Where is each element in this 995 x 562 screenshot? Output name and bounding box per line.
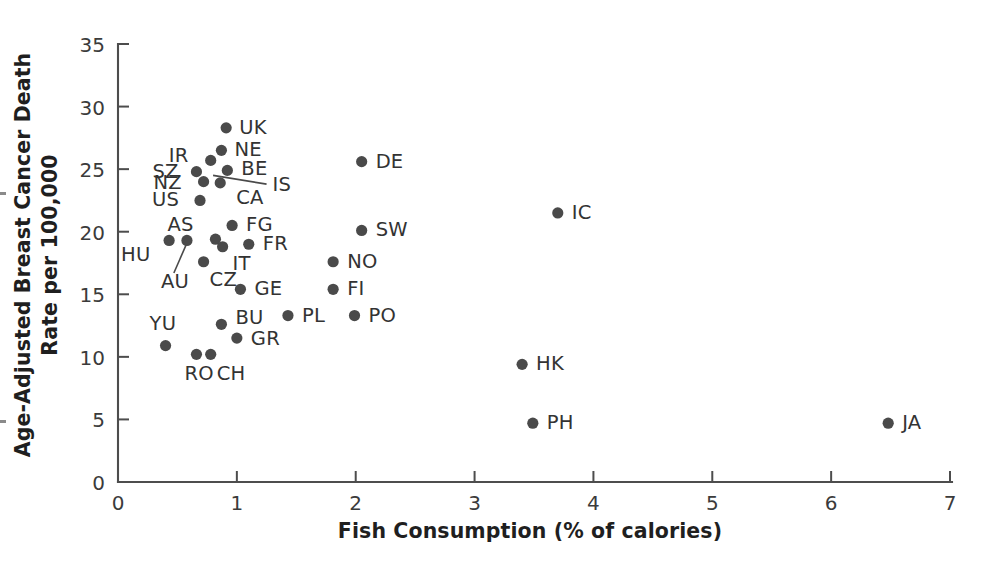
x-tick-label-3: 3 <box>468 491 481 515</box>
data-points: UKNEIRBESZNZCAUSFGASHUAUFRITCZGEBUGRYURO… <box>121 116 922 434</box>
au-leader <box>174 243 187 273</box>
point-label-CH: CH <box>217 362 246 385</box>
data-point-IC[interactable] <box>552 207 563 218</box>
point-label-CA: CA <box>236 186 264 209</box>
y-tick-label-15: 15 <box>80 283 105 307</box>
data-point-NO[interactable] <box>328 256 339 267</box>
data-point-NZ[interactable] <box>198 176 209 187</box>
data-point-RO[interactable] <box>191 349 202 360</box>
point-label-PO: PO <box>369 304 397 327</box>
x-tick-label-1: 1 <box>230 491 243 515</box>
x-tick-label-7: 7 <box>944 491 957 515</box>
data-point-CA[interactable] <box>215 177 226 188</box>
x-tick-label-5: 5 <box>706 491 719 515</box>
data-point-GE[interactable] <box>235 284 246 295</box>
point-label-GR: GR <box>251 327 280 350</box>
data-point-PH[interactable] <box>527 418 538 429</box>
point-label-CZ: CZ <box>210 268 237 291</box>
y-axis-title-line1: Age-Adjusted Breast Cancer Death <box>11 53 35 458</box>
data-point-IT[interactable] <box>217 241 228 252</box>
data-point-BU[interactable] <box>216 319 227 330</box>
x-axis-title: Fish Consumption (% of calories) <box>338 519 722 543</box>
data-point-IR[interactable] <box>205 155 216 166</box>
x-tick-label-4: 4 <box>587 491 600 515</box>
point-label-IS: IS <box>273 173 292 196</box>
data-point-NE[interactable] <box>216 145 227 156</box>
data-point-GR[interactable] <box>231 332 242 343</box>
data-point-FR[interactable] <box>243 239 254 250</box>
point-label-UK: UK <box>239 116 267 139</box>
data-point-HK[interactable] <box>517 359 528 370</box>
point-label-JA: JA <box>900 411 922 434</box>
data-point-HU[interactable] <box>164 235 175 246</box>
y-tick-label-5: 5 <box>92 408 105 432</box>
data-point-CZ[interactable] <box>198 256 209 267</box>
data-point-DE[interactable] <box>356 156 367 167</box>
data-point-PO[interactable] <box>349 310 360 321</box>
y-tick-label-25: 25 <box>80 158 105 182</box>
point-label-US: US <box>152 188 179 211</box>
data-point-AU[interactable] <box>181 235 192 246</box>
point-label-BU: BU <box>235 306 263 329</box>
data-point-UK[interactable] <box>221 122 232 133</box>
y-tick-label-10: 10 <box>80 346 105 370</box>
data-point-BE[interactable] <box>222 165 233 176</box>
x-tick-label-2: 2 <box>349 491 362 515</box>
y-tick-label-35: 35 <box>80 33 105 57</box>
x-tick-label-6: 6 <box>825 491 838 515</box>
point-label-SW: SW <box>376 218 408 241</box>
point-label-PL: PL <box>302 304 325 327</box>
data-point-US[interactable] <box>194 195 205 206</box>
point-label-RO: RO <box>184 362 213 385</box>
point-label-PH: PH <box>547 411 574 434</box>
data-point-SZ[interactable] <box>191 166 202 177</box>
data-point-PL[interactable] <box>282 310 293 321</box>
scatter-plot-figure: 0123456705101520253035 IS UKNEIRBESZNZCA… <box>0 0 995 562</box>
data-point-YU[interactable] <box>160 340 171 351</box>
plot-svg: 0123456705101520253035 IS UKNEIRBESZNZCA… <box>0 0 995 562</box>
point-label-FR: FR <box>263 232 288 255</box>
point-label-AS: AS <box>167 213 193 236</box>
y-axis-title-line2: Rate per 100,000 <box>38 154 62 355</box>
page-edge-marks <box>0 192 6 423</box>
x-tick-label-0: 0 <box>112 491 125 515</box>
data-point-FI[interactable] <box>328 284 339 295</box>
data-point-CH[interactable] <box>205 349 216 360</box>
point-label-BE: BE <box>241 157 267 180</box>
data-point-SW[interactable] <box>356 225 367 236</box>
point-label-HU: HU <box>121 243 150 266</box>
y-tick-label-0: 0 <box>92 471 105 495</box>
data-point-JA[interactable] <box>883 418 894 429</box>
point-label-DE: DE <box>376 150 404 173</box>
point-label-NO: NO <box>347 250 377 273</box>
point-label-AU: AU <box>161 270 189 293</box>
point-label-YU: YU <box>149 312 177 335</box>
y-tick-label-30: 30 <box>80 96 105 120</box>
point-label-GE: GE <box>254 277 282 300</box>
y-tick-label-20: 20 <box>80 221 105 245</box>
point-label-FI: FI <box>347 277 364 300</box>
point-label-IC: IC <box>572 201 592 224</box>
data-point-FG[interactable] <box>227 220 238 231</box>
point-label-HK: HK <box>536 352 565 375</box>
